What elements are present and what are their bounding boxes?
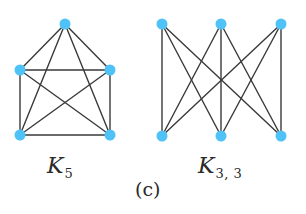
node-top <box>60 19 71 30</box>
node-bottom-left <box>15 130 26 141</box>
edge-top-mid-left <box>20 24 65 70</box>
node-b2 <box>216 131 227 142</box>
node-a2 <box>216 19 227 30</box>
edge-top-mid-right <box>65 24 110 70</box>
k33-label: K3, 3 <box>198 155 242 177</box>
k33-edges <box>162 24 281 136</box>
node-mid-right <box>105 65 116 76</box>
k5-graph <box>15 19 116 141</box>
k5-label-subscript: 5 <box>64 166 73 181</box>
node-b3 <box>276 131 287 142</box>
k5-edges <box>20 24 110 135</box>
node-b1 <box>157 131 168 142</box>
node-bottom-right <box>105 130 116 141</box>
k5-label-main: K <box>47 153 63 178</box>
node-a1 <box>157 19 168 30</box>
node-mid-left <box>15 65 26 76</box>
node-a3 <box>276 19 287 30</box>
k5-nodes <box>15 19 116 141</box>
k33-label-subscript: 3, 3 <box>215 166 242 181</box>
k5-label: K5 <box>47 155 73 177</box>
k33-label-main: K <box>198 153 214 178</box>
k33-graph <box>157 19 287 142</box>
figure-caption: (c) <box>135 180 160 199</box>
